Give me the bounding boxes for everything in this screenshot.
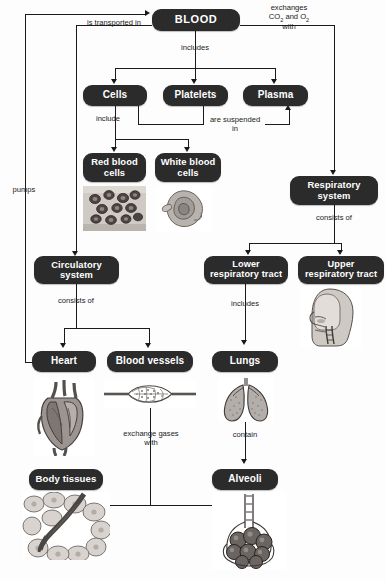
label-exchanges-gases-with: exchanges CO2 and O2 with xyxy=(249,4,329,31)
line-cells-fan xyxy=(115,139,189,140)
node-heart[interactable]: Heart xyxy=(32,351,96,372)
arrowhead-to-lower-tract xyxy=(245,250,251,255)
figure-heart-anatomy-illustration xyxy=(34,378,94,456)
node-respiratory-system[interactable]: Respiratory system xyxy=(290,176,378,205)
arrowhead-exchanges-to-respiratory xyxy=(330,170,336,175)
arrowhead-pumps-to-blood xyxy=(145,10,150,16)
arrowhead-to-platelets xyxy=(191,79,197,84)
label-are-suspended-in: are suspended in xyxy=(206,116,264,134)
node-upper-respiratory-tract[interactable]: Upper respiratory tract xyxy=(298,256,384,284)
arrowhead-to-blood-vessels xyxy=(145,343,151,348)
node-blood[interactable]: BLOOD xyxy=(152,9,240,31)
arrowhead-to-lungs xyxy=(241,340,247,345)
label-exchanges-line1: exchanges xyxy=(271,3,308,12)
line-lower-to-lungs xyxy=(245,283,246,341)
line-respiratory-down xyxy=(334,205,335,243)
arrowhead-to-upper-tract xyxy=(337,250,343,255)
line-vessels-down xyxy=(150,405,151,505)
figure-upper-respiratory-tract-illustration xyxy=(300,286,362,348)
node-lungs[interactable]: Lungs xyxy=(212,351,278,372)
figure-body-tissue-capillary-illustration xyxy=(22,492,110,560)
line-fan-to-vessels xyxy=(149,328,150,345)
line-exchanges-vertical xyxy=(334,25,335,172)
label-exchanges-line2: CO2 and O2 xyxy=(269,12,309,21)
figure-capillary-bed-illustration xyxy=(104,380,196,408)
label-pumps: pumps xyxy=(2,186,46,195)
arrowhead-to-white-blood-cells xyxy=(184,147,190,152)
node-body-tissues[interactable]: Body tissues xyxy=(29,469,103,490)
line-circulatory-fan xyxy=(64,328,150,329)
label-is-transported-in: is transported in xyxy=(82,19,146,28)
node-cells[interactable]: Cells xyxy=(83,85,147,106)
figure-alveoli-cluster-illustration xyxy=(212,492,286,570)
node-red-blood-cells[interactable]: Red blood cells xyxy=(83,153,146,182)
node-blood-vessels[interactable]: Blood vessels xyxy=(107,351,193,372)
node-platelets[interactable]: Platelets xyxy=(163,85,228,106)
label-contain: contain xyxy=(221,431,269,440)
node-circulatory-system[interactable]: Circulatory system xyxy=(34,256,119,284)
line-suspended-up-plasma xyxy=(289,110,290,124)
line-respiratory-fan xyxy=(249,243,342,244)
label-exchanges-line3: with xyxy=(282,22,296,31)
line-suspended-from-platelets xyxy=(203,106,204,124)
figure-lungs-illustration xyxy=(218,378,274,422)
node-lower-respiratory-tract[interactable]: Lower respiratory tract xyxy=(204,256,288,284)
node-plasma[interactable]: Plasma xyxy=(243,85,308,106)
line-suspended-horizontal xyxy=(138,124,204,125)
figure-red-blood-cells-micrograph xyxy=(83,186,146,231)
line-pumps-top xyxy=(25,14,145,15)
line-fan-to-heart xyxy=(64,328,65,345)
node-white-blood-cells[interactable]: White blood cells xyxy=(155,153,221,182)
label-includes-blood: includes xyxy=(168,44,222,53)
label-include: include xyxy=(84,115,132,124)
arrowhead-to-plasma xyxy=(271,79,277,84)
arrowhead-to-alveoli xyxy=(241,459,247,464)
node-alveoli[interactable]: Alveoli xyxy=(212,469,278,490)
figure-white-blood-cell-micrograph xyxy=(156,186,212,232)
line-transported-vertical xyxy=(76,25,77,253)
concept-map-canvas: is transported in exchanges CO2 and O2 w… xyxy=(0,0,386,581)
line-suspended-from-cells xyxy=(138,106,139,124)
label-consists-of-circulatory: consists of xyxy=(48,297,104,306)
label-consists-of-respiratory: consists of xyxy=(306,214,362,223)
arrowhead-to-cells xyxy=(111,79,117,84)
arrowhead-to-heart xyxy=(60,343,66,348)
arrowhead-to-red-blood-cells xyxy=(111,147,117,152)
line-suspended-to-plasma xyxy=(265,124,290,125)
label-exchange-gases-with: exchange gases with xyxy=(123,430,179,448)
label-includes-lower: includes xyxy=(219,300,271,309)
